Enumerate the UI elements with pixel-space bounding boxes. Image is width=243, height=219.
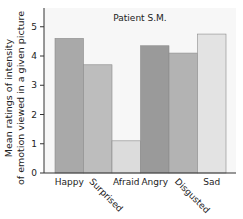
bar-chart: 012345 HappySurprisedAfraidAngryDisguste… bbox=[0, 0, 243, 219]
chart-title: Patient S.M. bbox=[113, 13, 166, 23]
x-tick-label: Angry bbox=[141, 177, 168, 187]
y-axis-label-line-1: Mean ratings of intensity bbox=[3, 38, 14, 157]
y-tick-label: 5 bbox=[31, 22, 37, 32]
x-tick-label: Afraid bbox=[113, 177, 139, 187]
bar-angry bbox=[141, 46, 170, 173]
bar-afraid bbox=[112, 141, 141, 173]
y-tick-label: 0 bbox=[31, 168, 37, 178]
y-axis-label: Mean ratings of intensity of emotion vie… bbox=[3, 11, 26, 185]
x-tick-label: Sad bbox=[203, 177, 220, 187]
bar-sad bbox=[198, 34, 227, 173]
bar-disgusted bbox=[169, 53, 198, 173]
y-tick-label: 3 bbox=[31, 80, 37, 90]
bar-surprised bbox=[84, 65, 113, 173]
x-tick-label: Happy bbox=[55, 177, 85, 187]
y-tick-label: 1 bbox=[31, 139, 37, 149]
y-tick-label: 2 bbox=[31, 110, 37, 120]
bar-happy bbox=[55, 38, 84, 173]
y-tick-label: 4 bbox=[31, 51, 37, 61]
y-axis-label-line-2: of emotion viewed in a given picture bbox=[15, 11, 26, 185]
